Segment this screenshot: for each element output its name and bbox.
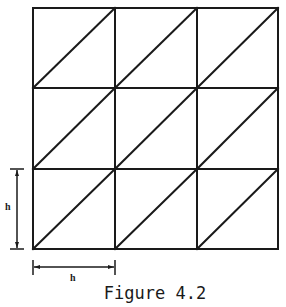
cell-diagonal: [197, 88, 278, 169]
arrow-down-icon: [15, 242, 19, 248]
cell-diagonal: [33, 169, 115, 249]
cell-diagonal: [115, 169, 197, 249]
cell-diagonal: [33, 8, 115, 88]
cell-diagonal: [33, 88, 115, 169]
arrow-up-icon: [15, 170, 19, 176]
vertical-dimension-label: h: [5, 201, 11, 212]
arrow-left-icon: [34, 265, 40, 269]
vertical-dimension: [10, 169, 24, 249]
cell-diagonal: [115, 8, 197, 88]
arrow-right-icon: [108, 265, 114, 269]
figure-caption: Figure 4.2: [0, 283, 286, 303]
triangulated-grid-diagram: h h: [0, 0, 286, 307]
cell-diagonal: [197, 8, 278, 88]
cell-diagonal: [197, 169, 278, 249]
cell-diagonal: [115, 88, 197, 169]
grid: [33, 8, 278, 249]
horizontal-dimension-label: h: [70, 272, 76, 283]
